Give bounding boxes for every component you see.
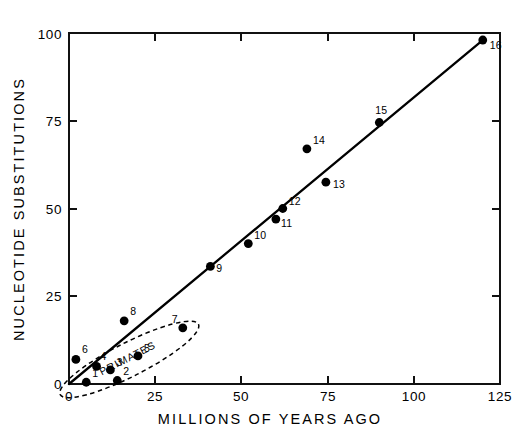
x-ticklabel-25: 25 <box>147 389 163 404</box>
data-point-7[interactable] <box>178 323 187 332</box>
data-point-14[interactable] <box>303 144 312 153</box>
data-points-layer: 12345678910111213141516 <box>71 36 501 387</box>
data-point-8[interactable] <box>120 316 129 325</box>
data-point-5[interactable] <box>134 352 143 361</box>
data-point-11[interactable] <box>271 215 280 224</box>
regression-line-layer <box>69 40 483 384</box>
y-axis-ticklabels: 0 25 50 75 100 <box>38 27 62 392</box>
data-point-1[interactable] <box>82 378 91 387</box>
data-point-3[interactable] <box>106 366 115 375</box>
data-point-12[interactable] <box>278 204 287 213</box>
data-point-label-3: 3 <box>116 356 122 368</box>
data-point-15[interactable] <box>375 118 384 127</box>
data-point-label-16: 16 <box>490 39 502 51</box>
data-point-label-2: 2 <box>123 365 129 377</box>
data-point-10[interactable] <box>244 239 253 248</box>
x-ticklabel-50: 50 <box>233 389 249 404</box>
data-point-label-9: 9 <box>216 262 222 274</box>
data-point-13[interactable] <box>321 178 330 187</box>
data-point-label-5: 5 <box>144 342 150 354</box>
data-point-label-15: 15 <box>375 104 387 116</box>
y-ticklabel-75: 75 <box>46 114 62 129</box>
regression-line <box>69 40 483 384</box>
scatter-plot: 0 25 50 75 100 0 25 50 75 100 125 <box>0 0 525 439</box>
x-ticklabel-100: 100 <box>402 389 426 404</box>
chart-figure: 0 25 50 75 100 0 25 50 75 100 125 <box>0 0 525 439</box>
x-axis-ticklabels: 0 25 50 75 100 125 <box>65 389 512 404</box>
data-point-label-13: 13 <box>333 178 345 190</box>
data-point-label-7: 7 <box>172 313 178 325</box>
data-point-label-12: 12 <box>289 195 301 207</box>
x-ticklabel-0: 0 <box>65 389 73 404</box>
data-point-4[interactable] <box>92 362 101 371</box>
data-point-9[interactable] <box>206 262 215 271</box>
data-point-label-4: 4 <box>101 350 107 362</box>
x-axis-title: MILLIONS OF YEARS AGO <box>158 411 382 427</box>
data-point-6[interactable] <box>71 355 80 364</box>
data-point-16[interactable] <box>478 36 487 45</box>
y-ticklabel-50: 50 <box>46 202 62 217</box>
data-point-label-6: 6 <box>82 343 88 355</box>
y-ticklabel-25: 25 <box>46 289 62 304</box>
data-point-label-14: 14 <box>313 134 325 146</box>
x-ticklabel-125: 125 <box>488 389 512 404</box>
x-ticklabel-75: 75 <box>320 389 336 404</box>
y-ticklabel-100: 100 <box>38 27 62 42</box>
data-point-label-11: 11 <box>281 217 292 229</box>
y-axis-title: NUCLEOTIDE SUBSTITUTIONS <box>11 77 27 341</box>
data-point-2[interactable] <box>113 376 122 385</box>
data-point-label-8: 8 <box>130 305 136 317</box>
data-point-label-10: 10 <box>254 229 266 241</box>
